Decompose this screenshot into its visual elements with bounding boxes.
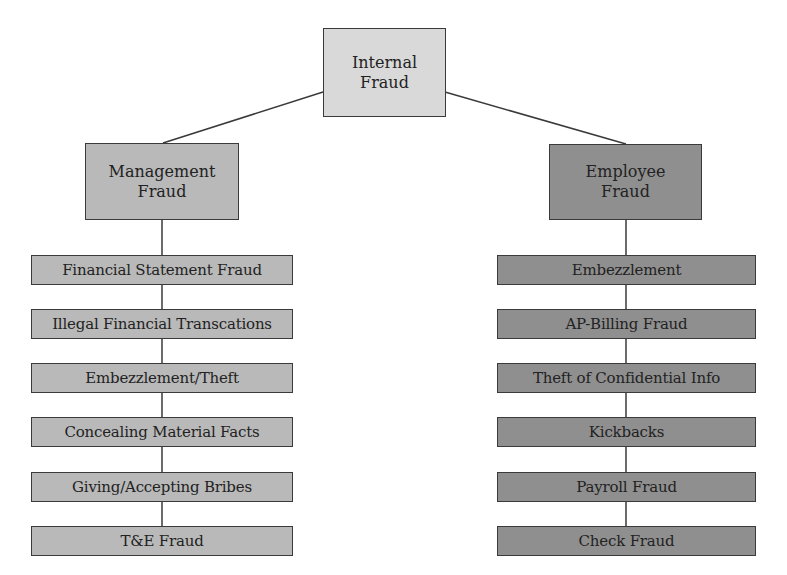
leaf-node-employee: Check Fraud	[497, 526, 756, 556]
root-label-line2: Fraud	[360, 73, 409, 93]
leaf-label: AP-Billing Fraud	[565, 315, 687, 334]
branch-label-line1: Management	[109, 162, 216, 182]
leaf-label: Illegal Financial Transcations	[52, 315, 272, 334]
leaf-label: Concealing Material Facts	[64, 423, 259, 442]
leaf-label: Kickbacks	[589, 423, 664, 442]
branch-node-management-fraud: Management Fraud	[85, 143, 239, 220]
branch-label-line2: Fraud	[138, 182, 187, 202]
leaf-node-management: Illegal Financial Transcations	[31, 309, 293, 339]
leaf-node-employee: Kickbacks	[497, 417, 756, 447]
leaf-node-employee: Embezzlement	[497, 255, 756, 285]
branch-label-line1: Employee	[586, 162, 666, 182]
leaf-node-management: Embezzlement/Theft	[31, 363, 293, 393]
leaf-node-employee: AP-Billing Fraud	[497, 309, 756, 339]
leaf-node-employee: Payroll Fraud	[497, 472, 756, 502]
leaf-label: Payroll Fraud	[576, 478, 677, 497]
leaf-node-employee: Theft of Confidential Info	[497, 363, 756, 393]
leaf-label: Check Fraud	[579, 532, 675, 551]
leaf-node-management: T&E Fraud	[31, 526, 293, 556]
leaf-label: Embezzlement/Theft	[85, 369, 239, 388]
branch-node-employee-fraud: Employee Fraud	[549, 144, 702, 220]
leaf-label: T&E Fraud	[120, 532, 203, 551]
leaf-node-management: Concealing Material Facts	[31, 417, 293, 447]
leaf-label: Giving/Accepting Bribes	[72, 478, 252, 497]
leaf-node-management: Giving/Accepting Bribes	[31, 472, 293, 502]
leaf-label: Financial Statement Fraud	[62, 261, 262, 280]
branch-label-line2: Fraud	[601, 182, 650, 202]
leaf-node-management: Financial Statement Fraud	[31, 255, 293, 285]
leaf-label: Theft of Confidential Info	[533, 369, 720, 388]
leaf-label: Embezzlement	[572, 261, 682, 280]
fraud-hierarchy-diagram: Internal Fraud Management Fraud Employee…	[0, 0, 787, 575]
root-label-line1: Internal	[352, 53, 417, 73]
root-node-internal-fraud: Internal Fraud	[323, 28, 446, 117]
